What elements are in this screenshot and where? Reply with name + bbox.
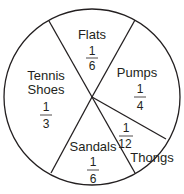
- svg-text:Tennis: Tennis: [27, 68, 65, 83]
- svg-text:Shoes: Shoes: [28, 82, 65, 97]
- svg-text:1: 1: [89, 44, 96, 58]
- svg-text:3: 3: [43, 117, 50, 131]
- svg-text:Pumps: Pumps: [117, 65, 158, 80]
- svg-text:1: 1: [43, 100, 50, 114]
- svg-text:Thongs: Thongs: [130, 150, 174, 165]
- svg-text:6: 6: [89, 59, 96, 73]
- svg-text:Sandals: Sandals: [70, 139, 117, 154]
- svg-text:4: 4: [137, 99, 144, 113]
- svg-text:12: 12: [118, 137, 132, 151]
- svg-text:1: 1: [123, 121, 130, 135]
- pie-chart: Flats 1 6 Pumps 1 4 1 12 Thongs Sandals …: [0, 0, 184, 194]
- svg-text:6: 6: [90, 172, 97, 186]
- svg-text:1: 1: [90, 155, 97, 169]
- slice-label: Flats: [78, 27, 107, 42]
- svg-text:1: 1: [137, 82, 144, 96]
